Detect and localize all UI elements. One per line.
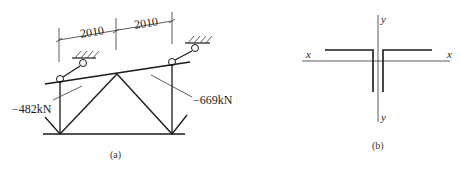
hatch-icon [200,36,206,43]
force-label-right: −669kN [193,93,233,107]
support-link-right [175,51,192,60]
diagonal-right [117,74,172,134]
hatch-icon [206,36,212,43]
left-support [57,51,100,83]
diagram-canvas: 2010 2010 [0,0,460,172]
dimension-label-left: 2010 [79,23,105,41]
force-labels: −482kN −669kN [12,75,233,116]
axis-label-x-left: x [305,48,311,60]
figure-b: x x y y (b) [302,13,452,152]
axis-label-y-bottom: y [380,111,386,123]
leader-line-left [53,86,82,100]
hatch-icon [188,36,194,43]
truss [43,62,190,134]
hinge-circle-upper-right [192,45,199,52]
figure-a: 2010 2010 [12,12,233,161]
axis-label-y-top: y [380,13,386,25]
axis-label-x-right: x [446,48,452,60]
hatch-icon [75,51,81,58]
dimension-lines: 2010 2010 [56,12,175,62]
hinge-circle-upper-left [80,60,87,67]
force-label-left: −482kN [12,102,52,116]
top-chord [45,62,190,84]
right-support [169,36,213,66]
hatch-icon [87,51,93,58]
caption-a: (a) [110,149,121,161]
dimension-label-right: 2010 [133,14,159,32]
hatch-icon [81,51,87,58]
caption-b: (b) [372,140,384,152]
angle-section-right [383,50,432,92]
diagonal-left [60,74,117,134]
hatch-icon [93,51,99,58]
diagonal-stub-right [172,115,187,134]
support-link-left [63,66,80,77]
hatch-icon [194,36,200,43]
diagonal-stub-left [45,117,60,134]
angle-section-left [325,50,373,92]
